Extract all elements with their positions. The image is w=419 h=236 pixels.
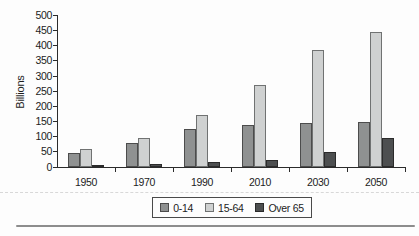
y-tick-label: 500 <box>18 9 52 22</box>
y-tick-label: 50 <box>18 145 52 158</box>
bar-0-14-2050 <box>358 122 370 167</box>
dotted-hairline <box>0 192 419 193</box>
y-tick-mark <box>53 151 57 152</box>
y-tick-label: 0 <box>18 161 52 174</box>
bar-0-14-1990 <box>184 129 196 167</box>
y-tick-mark <box>53 60 57 61</box>
y-tick-mark <box>53 167 57 168</box>
bar-15-64-1970 <box>138 138 150 167</box>
bar-15-64-2010 <box>254 85 266 167</box>
bar-0-14-1950 <box>68 153 80 167</box>
legend-label: 15-64 <box>218 203 243 213</box>
y-tick-mark <box>53 91 57 92</box>
x-tick-mark <box>289 168 290 172</box>
legend-item: Over 65 <box>255 203 303 213</box>
x-tick-mark <box>231 168 232 172</box>
y-tick-label: 100 <box>18 130 52 143</box>
bar-15-64-1950 <box>80 149 92 167</box>
y-tick-mark <box>53 121 57 122</box>
y-tick-mark <box>53 76 57 77</box>
legend-swatch-icon <box>160 203 169 212</box>
legend-box: 0-1415-64Over 65 <box>152 197 312 218</box>
x-tick-mark <box>173 168 174 172</box>
y-tick-mark <box>53 106 57 107</box>
bar-Over 65-1990 <box>208 162 220 167</box>
legend-item: 0-14 <box>160 203 193 213</box>
y-tick-mark <box>53 45 57 46</box>
y-tick-label: 300 <box>18 70 52 83</box>
bar-Over 65-1970 <box>150 164 162 167</box>
y-tick-label: 400 <box>18 39 52 52</box>
x-tick-mark <box>115 168 116 172</box>
bar-Over 65-2030 <box>324 152 336 167</box>
bar-0-14-2030 <box>300 123 312 167</box>
y-tick-label: 150 <box>18 115 52 128</box>
bar-Over 65-2010 <box>266 160 278 167</box>
bar-15-64-2030 <box>312 50 324 167</box>
y-tick-mark <box>53 30 57 31</box>
y-tick-label: 250 <box>18 85 52 98</box>
y-tick-mark <box>53 15 57 16</box>
x-tick-mark <box>405 168 406 172</box>
x-category-label: 1950 <box>64 176 108 188</box>
legend-label: 0-14 <box>173 203 193 213</box>
x-category-label: 1970 <box>122 176 166 188</box>
y-tick-mark <box>53 136 57 137</box>
x-category-label: 1990 <box>180 176 224 188</box>
bar-0-14-2010 <box>242 125 254 167</box>
bar-0-14-1970 <box>126 143 138 167</box>
y-tick-label: 200 <box>18 100 52 113</box>
legend-swatch-icon <box>205 203 214 212</box>
y-tick-label: 350 <box>18 54 52 67</box>
y-axis-line <box>57 15 58 168</box>
legend-label: Over 65 <box>268 203 303 213</box>
x-category-label: 2050 <box>354 176 398 188</box>
x-tick-mark <box>347 168 348 172</box>
bar-15-64-2050 <box>370 32 382 167</box>
legend-item: 15-64 <box>205 203 243 213</box>
population-age-group-chart-figure: Billions 0501001502002503003504004505001… <box>0 0 419 236</box>
x-category-label: 2030 <box>296 176 340 188</box>
bar-Over 65-2050 <box>382 138 394 167</box>
x-category-label: 2010 <box>238 176 282 188</box>
bar-15-64-1990 <box>196 115 208 167</box>
bar-Over 65-1950 <box>92 165 104 167</box>
legend-swatch-icon <box>255 203 264 212</box>
y-tick-label: 450 <box>18 24 52 37</box>
bottom-divider <box>16 225 415 227</box>
